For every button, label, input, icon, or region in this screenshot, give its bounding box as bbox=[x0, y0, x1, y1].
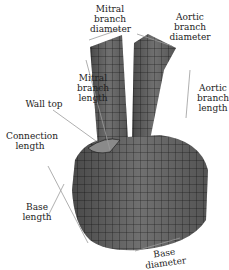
label-mitral-branch-length: Mitral branch length bbox=[76, 73, 110, 103]
aortic-length-arrow bbox=[186, 70, 190, 118]
label-wall-top: Wall top bbox=[24, 99, 64, 109]
label-base-length: Base length bbox=[12, 202, 62, 222]
aortic-branch bbox=[132, 34, 176, 140]
label-aortic-branch-diameter: Aortic branch diameter bbox=[168, 12, 212, 42]
wall-top-leader bbox=[53, 110, 96, 141]
label-aortic-branch-length: Aortic branch length bbox=[196, 83, 229, 113]
base-body bbox=[72, 135, 208, 250]
label-connection-length: Connection length bbox=[6, 131, 54, 151]
label-mitral-branch-diameter: Mitral branch diameter bbox=[90, 4, 130, 34]
